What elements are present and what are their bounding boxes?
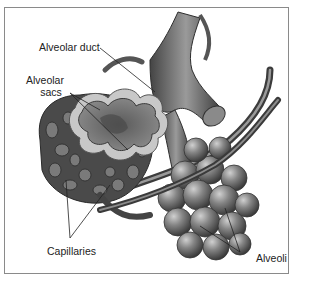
- label-alveolar-sacs: Alveolar sacs: [26, 74, 64, 98]
- alveolar-sac-icon: [69, 89, 167, 160]
- label-alveolar-sacs-line2: sacs: [26, 86, 64, 98]
- label-alveolar-duct: Alveolar duct: [39, 41, 100, 53]
- label-capillaries: Capillaries: [47, 245, 96, 257]
- label-alveolar-sacs-line1: Alveolar: [26, 74, 64, 86]
- label-alveoli: Alveoli: [256, 252, 287, 264]
